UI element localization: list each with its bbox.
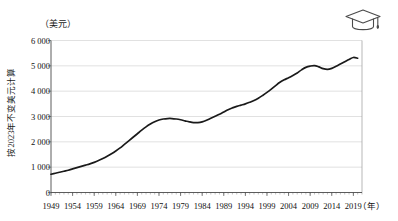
x-axis-tick-label: 1959 — [86, 202, 103, 211]
x-axis-tick-label: 1964 — [107, 202, 124, 211]
x-axis-tick-label: 1999 — [258, 202, 275, 211]
education-spending-line-chart: （美元） 按2023年不变美元计算 01 0002 0003 0004 0005… — [0, 0, 398, 221]
x-axis-tick-label: 2009 — [302, 202, 319, 211]
x-axis-tick-labels: （年） 194919541959196419691974197919841989… — [0, 0, 398, 221]
x-axis-tick-label: 1994 — [237, 202, 254, 211]
x-axis-tick-label: 1984 — [194, 202, 211, 211]
x-axis-tick-label: 1949 — [43, 202, 60, 211]
x-axis-tick-label: 2014 — [323, 202, 340, 211]
x-axis-tick-label: 2019 — [345, 202, 362, 211]
x-axis-tick-label: 2004 — [280, 202, 297, 211]
x-axis-tick-label: 1974 — [150, 202, 167, 211]
x-axis-tick-label: 1969 — [129, 202, 146, 211]
x-axis-tick-label: 1989 — [215, 202, 232, 211]
x-axis-tick-label: 1979 — [172, 202, 189, 211]
x-axis-tick-label: 1954 — [64, 202, 81, 211]
